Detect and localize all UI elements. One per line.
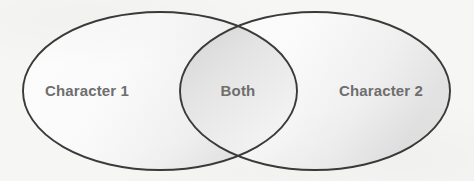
venn-label-right: Character 2 (339, 82, 423, 99)
venn-label-left: Character 1 (45, 82, 129, 99)
venn-label-intersection: Both (221, 82, 256, 99)
venn-diagram: Character 1 Both Character 2 (0, 0, 474, 181)
